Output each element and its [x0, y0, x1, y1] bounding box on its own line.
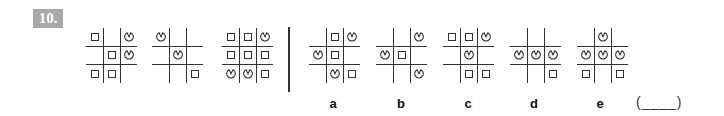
- square-icon: [244, 33, 252, 41]
- option-b-figure[interactable]: [376, 28, 427, 83]
- grid-line-vertical: [169, 28, 170, 83]
- grid-cell: [309, 28, 326, 46]
- grid-line-horizontal: [86, 64, 137, 65]
- square-icon: [91, 33, 99, 41]
- option-c-label[interactable]: c: [458, 96, 478, 111]
- option-e-figure[interactable]: [577, 28, 628, 83]
- grid-cell: [376, 46, 393, 64]
- grid-cell: [86, 28, 103, 46]
- grid-cell: [577, 64, 594, 83]
- grid-cell: [326, 64, 343, 83]
- square-icon: [482, 70, 490, 78]
- question-number-badge: 10.: [33, 9, 63, 28]
- square-icon: [465, 70, 473, 78]
- pacman-icon: [226, 69, 236, 79]
- grid-cell: [239, 64, 256, 83]
- pacman-icon: [598, 32, 608, 42]
- grid-line-horizontal: [510, 64, 561, 65]
- square-icon: [582, 70, 590, 78]
- grid-cell: [527, 64, 544, 83]
- option-b-label[interactable]: b: [391, 96, 411, 111]
- pacman-icon: [330, 69, 340, 79]
- grid-cell: [527, 28, 544, 46]
- grid-cell: [510, 64, 527, 83]
- grid-line-vertical: [239, 28, 240, 83]
- grid-cell: [376, 64, 393, 83]
- grid-cell: [393, 28, 410, 46]
- pacman-icon: [173, 50, 183, 60]
- grid-cell: [256, 46, 273, 64]
- grid-cell: [544, 28, 561, 46]
- grid-cell: [326, 28, 343, 46]
- option-e-label[interactable]: e: [590, 96, 610, 111]
- grid-line-horizontal: [152, 46, 203, 47]
- grid-line-horizontal: [443, 46, 494, 47]
- grid-cell: [152, 28, 169, 46]
- grid-cell: [410, 28, 427, 46]
- grid-cell: [309, 46, 326, 64]
- pacman-icon: [380, 50, 390, 60]
- grid-cell: [611, 28, 628, 46]
- grid-cell: [103, 64, 120, 83]
- option-c-figure[interactable]: [443, 28, 494, 83]
- grid-line-horizontal: [443, 64, 494, 65]
- grid-line-horizontal: [222, 64, 273, 65]
- grid-cell: [460, 64, 477, 83]
- option-a-figure[interactable]: [309, 28, 360, 83]
- grid-line-vertical: [393, 28, 394, 83]
- grid-line-vertical: [343, 28, 344, 83]
- grid-line-horizontal: [222, 46, 273, 47]
- grid-cell: [86, 64, 103, 83]
- grid-cell: [510, 28, 527, 46]
- grid-cell: [239, 46, 256, 64]
- grid-line-vertical: [477, 28, 478, 83]
- grid-cell: [186, 46, 203, 64]
- square-icon: [465, 33, 473, 41]
- option-a-label[interactable]: a: [323, 96, 343, 111]
- square-icon: [331, 51, 339, 59]
- grid-cell: [460, 46, 477, 64]
- square-icon: [108, 70, 116, 78]
- pacman-icon: [598, 50, 608, 60]
- grid-cell: [152, 64, 169, 83]
- grid-cell: [256, 64, 273, 83]
- grid-line-horizontal: [376, 64, 427, 65]
- grid-cell: [376, 28, 393, 46]
- option-d-label[interactable]: d: [524, 96, 544, 111]
- separator-line: [288, 27, 290, 92]
- grid-cell: [544, 46, 561, 64]
- grid-line-vertical: [460, 28, 461, 83]
- pacman-icon: [260, 32, 270, 42]
- grid-line-horizontal: [577, 46, 628, 47]
- pacman-icon: [156, 32, 166, 42]
- pacman-icon: [581, 50, 591, 60]
- option-d-figure[interactable]: [510, 28, 561, 83]
- answer-blank[interactable]: (____): [636, 94, 682, 110]
- grid-line-horizontal: [86, 46, 137, 47]
- grid-cell: [477, 46, 494, 64]
- grid-cell: [393, 64, 410, 83]
- pacman-icon: [615, 50, 625, 60]
- grid-line-vertical: [544, 28, 545, 83]
- grid-cell: [410, 64, 427, 83]
- grid-line-horizontal: [309, 46, 360, 47]
- grid-cell: [186, 64, 203, 83]
- pacman-icon: [414, 32, 424, 42]
- grid-cell: [120, 46, 137, 64]
- pacman-icon: [243, 69, 253, 79]
- grid-cell: [477, 64, 494, 83]
- grid-cell: [186, 28, 203, 46]
- grid-cell: [86, 46, 103, 64]
- square-icon: [331, 33, 339, 41]
- grid-line-horizontal: [309, 64, 360, 65]
- grid-line-vertical: [527, 28, 528, 83]
- grid-cell: [443, 46, 460, 64]
- grid-cell: [103, 46, 120, 64]
- square-icon: [91, 70, 99, 78]
- square-icon: [616, 70, 624, 78]
- grid-cell: [477, 28, 494, 46]
- grid-cell: [343, 46, 360, 64]
- grid-cell: [152, 46, 169, 64]
- grid-cell: [510, 46, 527, 64]
- grid-cell: [611, 46, 628, 64]
